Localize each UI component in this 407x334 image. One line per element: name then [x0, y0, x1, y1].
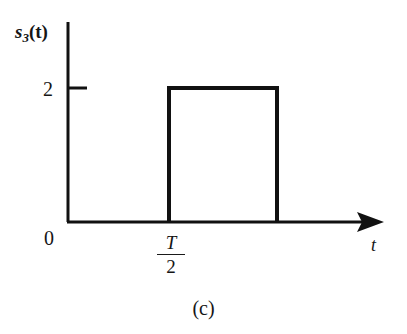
fraction-numerator: T — [157, 233, 185, 255]
waveform-plot — [0, 0, 407, 334]
y-tick-label-2: 2 — [43, 79, 53, 99]
pulse-waveform — [169, 88, 277, 222]
figure-caption: (c) — [0, 298, 407, 318]
y-axis-label-argument: (t) — [29, 21, 48, 42]
x-axis-label: t — [371, 236, 376, 254]
fraction-denominator: 2 — [157, 255, 185, 278]
x-tick-label-half-T: T2 — [157, 233, 185, 278]
figure-container: s3(t) 2 0 T2 t (c) — [0, 0, 407, 334]
origin-label: 0 — [44, 228, 54, 248]
y-axis-label: s3(t) — [15, 22, 48, 44]
